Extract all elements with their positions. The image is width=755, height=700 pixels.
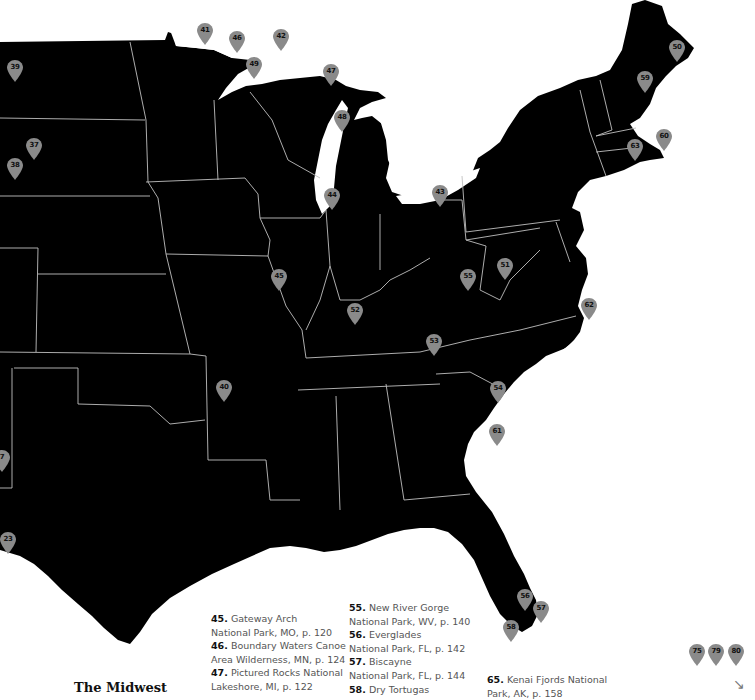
map-pin-45[interactable]: 45 <box>271 269 287 291</box>
legend-number: 55. <box>349 602 366 613</box>
map-pin-label: 47 <box>323 67 339 75</box>
map-pin-label: 46 <box>229 34 245 42</box>
legend-location: National Park, MO, p. 120 <box>211 627 332 638</box>
map-pin-43[interactable]: 43 <box>432 185 448 207</box>
map-pin-label: 53 <box>426 337 442 345</box>
map-pin-label: 38 <box>7 161 23 169</box>
legend-park-name: Kenai Fjords National <box>507 674 607 685</box>
map-pin-55[interactable]: 55 <box>460 269 476 291</box>
legend-column-1: 45. Gateway ArchNational Park, MO, p. 12… <box>211 612 346 694</box>
legend-item-46[interactable]: 46. Boundary Waters CanoeArea Wilderness… <box>211 639 346 666</box>
map-pin-75[interactable]: 75 <box>689 644 705 666</box>
legend-park-name: Gateway Arch <box>231 613 297 624</box>
map-pin-38[interactable]: 38 <box>7 158 23 180</box>
map-pin-label: 55 <box>460 272 476 280</box>
legend-item-57[interactable]: 57. BiscayneNational Park, FL, p. 144 <box>349 655 470 682</box>
legend-item-65[interactable]: 65. Kenai Fjords NationalPark, AK, p. 15… <box>487 673 607 700</box>
next-arrow-icon[interactable]: ↘ <box>733 676 745 692</box>
legend-item-55[interactable]: 55. New River GorgeNational Park, WV, p.… <box>349 601 470 628</box>
map-pin-label: 52 <box>347 306 363 314</box>
map-pin-59[interactable]: 59 <box>637 71 653 93</box>
legend-park-name: New River Gorge <box>369 602 449 613</box>
map-pin-39[interactable]: 39 <box>7 60 23 82</box>
map-pin-label: 44 <box>324 191 340 199</box>
map-pin-53[interactable]: 53 <box>426 334 442 356</box>
legend-park-name: Everglades <box>369 629 422 640</box>
legend-location: National Park, WV, p. 140 <box>349 616 470 627</box>
map-pin-7[interactable]: 7 <box>0 450 10 472</box>
map-pin-23[interactable]: 23 <box>0 532 16 554</box>
legend-location: Lakeshore, MI, p. 122 <box>211 681 313 692</box>
map-pin-label: 51 <box>497 261 513 269</box>
map-pin-52[interactable]: 52 <box>347 303 363 325</box>
legend-item-47[interactable]: 47. Pictured Rocks NationalLakeshore, MI… <box>211 666 346 693</box>
legend-number: 45. <box>211 613 228 624</box>
map-pin-54[interactable]: 54 <box>490 381 506 403</box>
map-pin-label: 62 <box>581 301 597 309</box>
legend-number: 56. <box>349 629 366 640</box>
map-pin-41[interactable]: 41 <box>197 23 213 45</box>
map-pin-56[interactable]: 56 <box>517 589 533 611</box>
map-pin-60[interactable]: 60 <box>656 129 672 151</box>
map-pin-label: 43 <box>432 188 448 196</box>
legend-item-58[interactable]: 58. Dry Tortugas <box>349 683 470 697</box>
map-pin-61[interactable]: 61 <box>489 424 505 446</box>
legend-number: 57. <box>349 656 366 667</box>
legend-item-56[interactable]: 56. EvergladesNational Park, FL, p. 142 <box>349 628 470 655</box>
map-pin-63[interactable]: 63 <box>627 139 643 161</box>
legend-park-name: Dry Tortugas <box>369 684 429 695</box>
map-pin-46[interactable]: 46 <box>229 31 245 53</box>
legend-park-name: Pictured Rocks National <box>231 667 343 678</box>
map-pin-label: 75 <box>689 647 705 655</box>
map-pin-79[interactable]: 79 <box>708 644 724 666</box>
map-pin-48[interactable]: 48 <box>334 110 350 132</box>
map-pin-label: 39 <box>7 63 23 71</box>
legend-number: 47. <box>211 667 228 678</box>
map-pin-label: 48 <box>334 113 350 121</box>
map-pin-47[interactable]: 47 <box>323 64 339 86</box>
legend-park-name: Boundary Waters Canoe <box>231 640 346 651</box>
map-pin-label: 41 <box>197 26 213 34</box>
map-pin-50[interactable]: 50 <box>669 40 685 62</box>
map-pin-label: 58 <box>503 623 519 631</box>
map-pin-label: 79 <box>708 647 724 655</box>
legend-column-2: 55. New River GorgeNational Park, WV, p.… <box>349 601 470 696</box>
legend-location: Park, AK, p. 158 <box>487 688 563 699</box>
legend-location: National Park, FL, p. 144 <box>349 670 465 681</box>
map-pin-label: 60 <box>656 132 672 140</box>
map-pin-42[interactable]: 42 <box>273 29 289 51</box>
map-pin-label: 23 <box>0 535 16 543</box>
map-pin-40[interactable]: 40 <box>216 380 232 402</box>
map-pin-label: 49 <box>246 60 262 68</box>
map-pin-label: 42 <box>273 32 289 40</box>
map-pin-label: 7 <box>0 453 10 461</box>
map-pin-62[interactable]: 62 <box>581 298 597 320</box>
legend-location: National Park, FL, p. 142 <box>349 643 465 654</box>
legend-number: 46. <box>211 640 228 651</box>
map-pin-49[interactable]: 49 <box>246 57 262 79</box>
map-pin-label: 61 <box>489 427 505 435</box>
section-title: The Midwest <box>74 680 167 695</box>
map-pin-label: 40 <box>216 383 232 391</box>
map-pin-label: 59 <box>637 74 653 82</box>
legend-column-3: 65. Kenai Fjords NationalPark, AK, p. 15… <box>487 673 607 700</box>
map-pin-label: 50 <box>669 43 685 51</box>
map-pin-label: 80 <box>728 647 744 655</box>
map-pin-57[interactable]: 57 <box>533 601 549 623</box>
map-pin-80[interactable]: 80 <box>728 644 744 666</box>
legend-location: Area Wilderness, MN, p. 124 <box>211 654 345 665</box>
legend-item-45[interactable]: 45. Gateway ArchNational Park, MO, p. 12… <box>211 612 346 639</box>
map-pin-label: 37 <box>26 141 42 149</box>
map-pin-58[interactable]: 58 <box>503 620 519 642</box>
map-pin-51[interactable]: 51 <box>497 258 513 280</box>
legend-park-name: Biscayne <box>369 656 412 667</box>
map-pin-label: 63 <box>627 142 643 150</box>
map-pin-label: 54 <box>490 384 506 392</box>
map-pin-37[interactable]: 37 <box>26 138 42 160</box>
map-pin-44[interactable]: 44 <box>324 188 340 210</box>
map-pin-label: 45 <box>271 272 287 280</box>
legend-number: 58. <box>349 684 366 695</box>
map-pin-label: 56 <box>517 592 533 600</box>
legend-number: 65. <box>487 674 504 685</box>
